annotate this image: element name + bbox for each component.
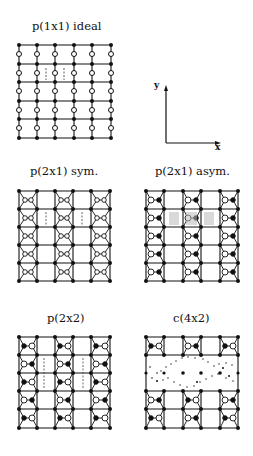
panel-p2x2-dimers <box>19 337 110 427</box>
panel-c4x2-dimers <box>146 337 238 428</box>
panel-c4x2-dotted-region <box>144 356 239 387</box>
panel-p2x1-asym-dimers <box>146 191 238 281</box>
coordinate-axes <box>164 85 221 145</box>
panel-p1x1-lattice <box>19 45 111 138</box>
panel-p2x1-asym-unit-cell <box>169 212 214 225</box>
panel-p1x1-atoms <box>17 43 114 140</box>
panel-c4x2-lattice <box>146 337 238 428</box>
panel-p2x1-sym-unit-cell <box>46 212 82 225</box>
panel-p2x1-sym-dimers <box>19 191 110 281</box>
